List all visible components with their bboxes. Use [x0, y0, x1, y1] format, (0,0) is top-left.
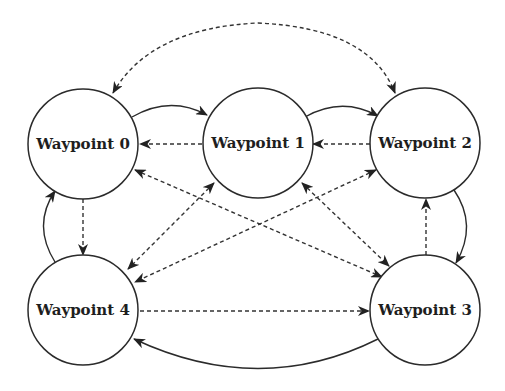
edge-2-to-3 — [454, 190, 467, 263]
waypoint-4-label: Waypoint 4 — [35, 301, 130, 319]
waypoint-2-label: Waypoint 2 — [377, 134, 472, 152]
edge-0-to-2-bidirectional — [113, 23, 395, 93]
node-waypoint-4: Waypoint 4 — [28, 255, 138, 365]
node-waypoint-3: Waypoint 3 — [370, 255, 480, 365]
node-waypoint-1: Waypoint 1 — [203, 88, 313, 198]
waypoint-graph: Waypoint 0 Waypoint 1 Waypoint 2 Waypoin… — [0, 0, 505, 391]
edge-1-to-3-bidirectional — [302, 183, 389, 266]
edge-0-to-1 — [132, 105, 207, 117]
node-waypoint-2: Waypoint 2 — [370, 88, 480, 198]
edge-3-to-4 — [134, 339, 378, 369]
edge-1-to-2 — [305, 106, 378, 117]
waypoint-3-label: Waypoint 3 — [377, 301, 472, 319]
node-waypoint-0: Waypoint 0 — [28, 89, 138, 199]
waypoint-0-label: Waypoint 0 — [35, 135, 130, 153]
edge-4-to-0 — [44, 191, 56, 262]
edge-1-to-4-bidirectional — [128, 183, 214, 269]
waypoint-1-label: Waypoint 1 — [210, 134, 305, 152]
